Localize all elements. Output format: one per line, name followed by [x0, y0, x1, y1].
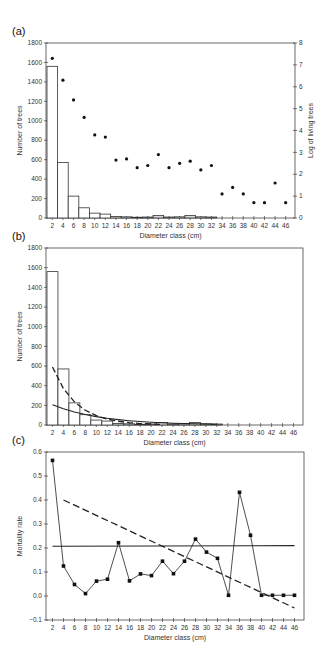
bar — [69, 403, 80, 425]
bar — [168, 424, 179, 425]
x-tick-label: 12 — [104, 429, 112, 436]
bar — [132, 217, 143, 218]
y-tick-label: 0.1 — [33, 568, 42, 575]
x-tick-label: 32 — [213, 429, 221, 436]
x-tick-label: 20 — [144, 222, 152, 229]
scatter-point — [51, 57, 54, 60]
x-axis-title: Diameter class (cm) — [144, 634, 206, 642]
x-tick-label: 2 — [51, 624, 55, 631]
y-tick-label: 0.0 — [33, 592, 42, 599]
x-tick-label: 24 — [165, 222, 173, 229]
x-tick-label: 46 — [282, 222, 290, 229]
bar — [153, 216, 164, 218]
scatter-point — [252, 201, 255, 204]
y-axis-title: Number of trees — [16, 311, 23, 362]
x-tick-label: 18 — [137, 429, 145, 436]
bar — [100, 214, 111, 218]
bar — [47, 272, 58, 425]
data-point — [172, 572, 176, 576]
x-tick-label: 24 — [170, 624, 178, 631]
scatter-point — [199, 168, 202, 171]
panel-b: 0200400600800100012001400160018002468101… — [16, 244, 303, 447]
y2-tick-label: 1 — [299, 192, 303, 199]
y-tick-label: 600 — [31, 362, 42, 369]
x-tick-label: 22 — [155, 222, 163, 229]
x-tick-label: 38 — [240, 222, 248, 229]
x-tick-label: 34 — [218, 222, 226, 229]
chart-figure: 0200400600800100012001400160018002468101… — [0, 0, 330, 655]
y-tick-label: 1400 — [28, 78, 43, 85]
scatter-point — [189, 160, 192, 163]
x-tick-label: 2 — [50, 222, 54, 229]
data-point — [260, 593, 264, 597]
scatter-point — [263, 201, 266, 204]
scatter-point — [83, 116, 86, 119]
scatter-point — [157, 153, 160, 156]
y-axis-title: Mortality rate — [16, 516, 24, 557]
data-point — [62, 564, 66, 568]
scatter-point — [61, 79, 64, 82]
x-tick-label: 40 — [250, 222, 258, 229]
bar — [80, 415, 91, 425]
x-tick-label: 46 — [290, 429, 298, 436]
data-point — [183, 559, 187, 563]
y-tick-label: 1000 — [28, 117, 43, 124]
data-point — [194, 537, 198, 541]
x-tick-label: 26 — [181, 624, 189, 631]
x-tick-label: 16 — [126, 624, 134, 631]
y2-tick-label: 3 — [299, 149, 303, 156]
x-tick-label: 30 — [203, 624, 211, 631]
x-tick-label: 26 — [180, 429, 188, 436]
scatter-point — [136, 166, 139, 169]
data-point — [117, 541, 121, 545]
y-tick-label: 0.2 — [33, 544, 42, 551]
bar — [135, 424, 146, 425]
bar — [196, 217, 207, 218]
x-tick-label: 4 — [62, 624, 66, 631]
x-tick-label: 32 — [214, 624, 222, 631]
data-point — [161, 559, 165, 563]
scatter-point — [178, 162, 181, 165]
bar — [113, 424, 124, 425]
scatter-point — [114, 158, 117, 161]
x-tick-label: 40 — [258, 624, 266, 631]
bar — [164, 217, 175, 218]
scatter-point — [210, 164, 213, 167]
x-tick-label: 36 — [229, 222, 237, 229]
data-point — [249, 533, 253, 537]
scatter-point — [220, 192, 223, 195]
scatter-point — [167, 166, 170, 169]
y-tick-label: 1200 — [28, 303, 43, 310]
y-axis-title: Number of trees — [16, 105, 23, 156]
y-tick-label: 800 — [31, 136, 42, 143]
bar — [79, 208, 90, 218]
data-point — [95, 579, 99, 583]
scatter-point — [231, 186, 234, 189]
x-tick-label: 20 — [148, 624, 156, 631]
x-tick-label: 42 — [268, 429, 276, 436]
x-tick-label: 10 — [93, 624, 101, 631]
x-axis-title: Diameter class (cm) — [139, 232, 201, 240]
x-tick-label: 46 — [291, 624, 299, 631]
x-tick-label: 36 — [236, 624, 244, 631]
x-tick-label: 28 — [191, 429, 199, 436]
data-point — [84, 592, 88, 596]
bar — [111, 217, 122, 218]
x-tick-label: 12 — [102, 222, 110, 229]
scatter-point — [93, 133, 96, 136]
y2-tick-label: 0 — [299, 214, 303, 221]
x-tick-label: 10 — [93, 429, 101, 436]
x-tick-label: 30 — [202, 429, 210, 436]
data-point — [216, 557, 220, 561]
x-tick-label: 6 — [73, 429, 77, 436]
x-tick-label: 44 — [279, 429, 287, 436]
y-tick-label: −0.1 — [29, 616, 42, 623]
y2-tick-label: 2 — [299, 170, 303, 177]
x-tick-label: 10 — [91, 222, 99, 229]
bar — [58, 369, 69, 425]
data-point — [128, 579, 132, 583]
x-tick-label: 42 — [261, 222, 269, 229]
x-tick-label: 8 — [84, 429, 88, 436]
bar — [68, 196, 79, 218]
y-tick-label: 0 — [38, 421, 42, 428]
